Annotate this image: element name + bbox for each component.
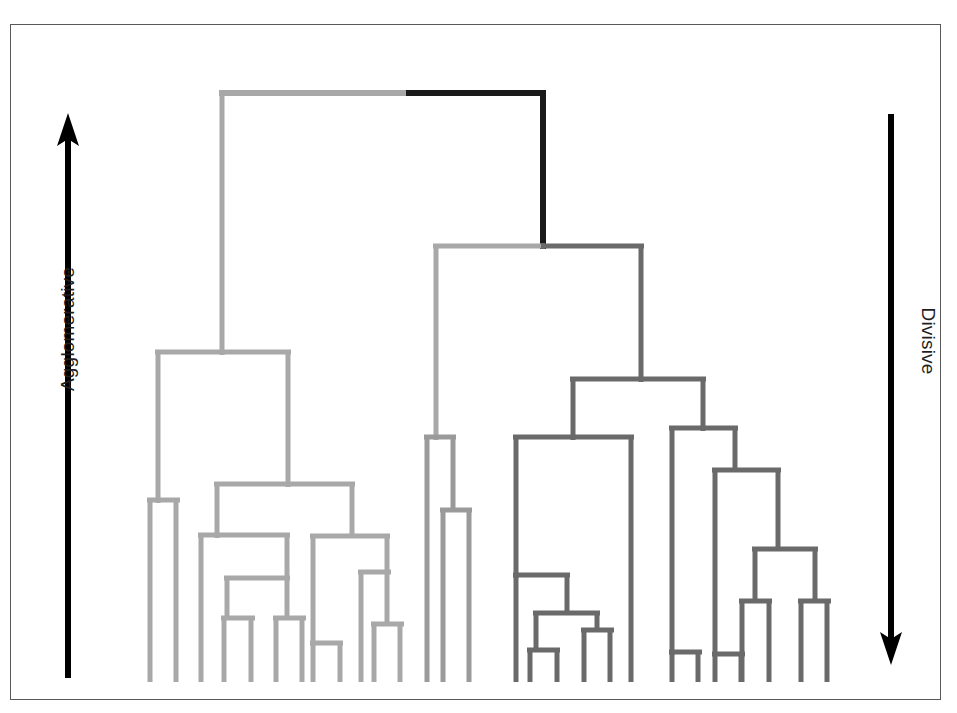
divisive-axis-label: Divisive [917,251,939,431]
dendrogram-canvas [0,0,957,713]
dendrogram-root-link [219,93,546,355]
agglomerative-axis-label: Agglomerative [57,239,79,419]
dendrogram-figure: Agglomerative Divisive [0,0,957,713]
cluster-right-subtree [513,379,831,682]
dendrogram-level2-link [433,246,644,440]
cluster-left-subtree [147,352,404,682]
divisive-arrow [880,114,902,665]
cluster-middle-pair [424,437,472,682]
